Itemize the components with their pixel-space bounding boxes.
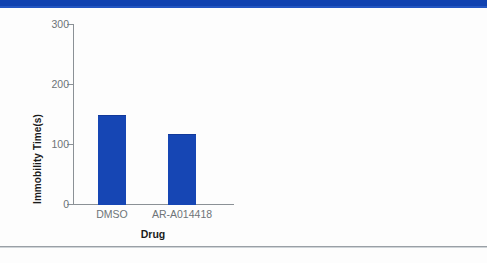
plot-area-left: 0 100 200 300 DMSO AR-A014418 Drug — [61, 12, 241, 250]
chart-panel-immobility-time: Immobility Time(s) 0 100 200 300 DMSO AR… — [6, 12, 246, 250]
bar-left-ar-a014418 — [168, 134, 196, 205]
y-tick-label-left-200: 200 — [51, 78, 69, 90]
x-axis-label-left: Drug — [141, 228, 166, 240]
footer-divider-shadow — [0, 247, 487, 248]
top-banner-highlight — [0, 6, 487, 8]
y-tick-label-left-100: 100 — [51, 138, 69, 150]
bar-left-dmso — [98, 115, 126, 205]
y-tick-label-left-300: 300 — [51, 18, 69, 30]
x-tick-label-left-dmso: DMSO — [96, 208, 128, 220]
x-tick-label-left-ar-a014418: AR-A014418 — [152, 208, 212, 220]
chart-panel-amphetamine-activity: Distance (percent of control) 0 50 100 1… — [244, 12, 487, 250]
y-axis-label-left: Immobility Time(s) — [32, 114, 43, 204]
y-axis-spine-left — [73, 24, 74, 204]
y-tick-label-left-0: 0 — [63, 198, 69, 210]
